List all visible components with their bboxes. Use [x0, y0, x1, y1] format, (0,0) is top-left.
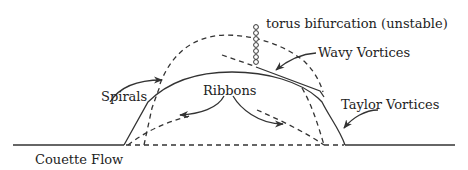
ribbons-arrow-left: [180, 96, 224, 115]
spirals-label: Spirals: [101, 90, 147, 103]
taylor-vortices-label: Taylor Vortices: [341, 98, 439, 111]
bifurcation-diagram: torus bifurcation (unstable) Wavy Vortic…: [0, 0, 468, 170]
taylor-arrow: [344, 110, 378, 128]
torus-label: torus bifurcation (unstable): [266, 17, 448, 30]
ribbons-label: Ribbons: [203, 84, 256, 97]
couette-flow-label: Couette Flow: [35, 153, 123, 166]
torus-circles: [254, 25, 259, 65]
inner-right-dashed: [302, 88, 324, 145]
wavy-vortices-label: Wavy Vortices: [318, 46, 410, 59]
torus-dashed: [222, 55, 254, 66]
